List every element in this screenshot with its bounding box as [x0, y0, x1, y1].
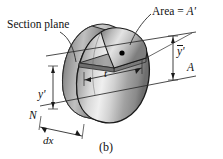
y-bar-overline-group: y' — [177, 46, 185, 58]
figure-container: Section plane Area = A' y' A N y' t dx (… — [0, 0, 223, 159]
label-y-prime: y' — [38, 89, 46, 101]
label-area-text: Area = — [152, 5, 184, 17]
label-axis-N: N — [29, 110, 37, 122]
overline-bar — [177, 45, 183, 46]
label-axis-A: A — [187, 62, 194, 74]
label-dx: dx — [43, 135, 53, 146]
label-y-bar-prime-text: y' — [177, 45, 185, 57]
label-thickness-t: t — [104, 68, 107, 79]
label-y-bar-prime: y' — [177, 46, 185, 58]
dimension-ybar-prime — [168, 36, 178, 80]
figure-caption: (b) — [99, 141, 113, 153]
label-area: Area = A' — [152, 6, 196, 18]
label-section-plane: Section plane — [7, 19, 69, 31]
centroid-dot — [119, 50, 124, 55]
label-area-symbol: A' — [187, 5, 196, 17]
